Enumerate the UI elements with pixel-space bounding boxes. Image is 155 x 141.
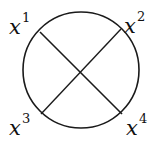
label-x4-base: x (126, 116, 138, 140)
label-x2-base: x (124, 14, 136, 38)
label-x4-sup: 4 (139, 111, 147, 126)
label-x1-sup: 1 (22, 10, 30, 25)
label-x1: x 1 (9, 10, 30, 39)
label-x2-sup: 2 (137, 9, 145, 24)
label-x1-base: x (9, 15, 21, 39)
label-x2: x 2 (124, 9, 145, 38)
label-x3-sup: 3 (22, 111, 30, 126)
crossing-chords-diagram: x 1 x 2 x 3 x 4 (0, 0, 155, 141)
circle (23, 12, 139, 128)
label-x3-base: x (9, 116, 21, 140)
label-x3: x 3 (9, 111, 30, 140)
label-x4: x 4 (126, 111, 147, 140)
